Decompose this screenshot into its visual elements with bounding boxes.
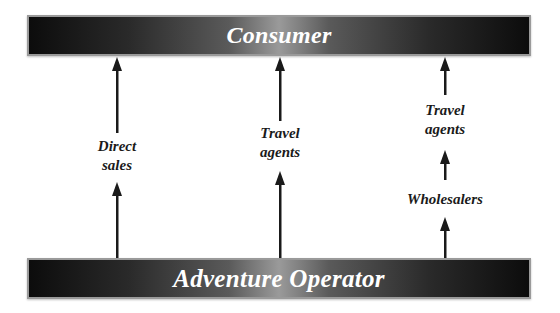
channel-label-travel-agents-2: Travel agents (405, 101, 485, 139)
label-line: Travel (405, 101, 485, 120)
arrow-up-icon (111, 182, 123, 258)
label-line: agents (240, 143, 320, 162)
channel-label-wholesalers: Wholesalers (395, 190, 495, 209)
label-line: sales (77, 156, 157, 175)
arrow-up-icon (274, 171, 286, 258)
label-line: Direct (77, 137, 157, 156)
arrow-up-icon (439, 217, 451, 258)
adventure-operator-node: Adventure Operator (27, 258, 531, 299)
channel-label-direct-sales: Direct sales (77, 137, 157, 175)
arrow-up-icon (439, 57, 451, 95)
label-line: Wholesalers (395, 190, 495, 209)
label-line: agents (405, 120, 485, 139)
arrow-up-icon (439, 150, 451, 180)
label-line: Travel (240, 124, 320, 143)
adventure-operator-label: Adventure Operator (173, 265, 385, 293)
arrow-up-icon (274, 57, 286, 121)
arrow-up-icon (111, 57, 123, 133)
consumer-label: Consumer (226, 22, 331, 49)
channel-label-travel-agents: Travel agents (240, 124, 320, 162)
consumer-node: Consumer (27, 15, 531, 56)
